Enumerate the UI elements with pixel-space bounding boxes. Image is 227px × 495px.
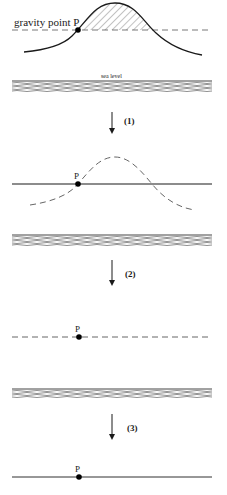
stage-step2: P xyxy=(12,324,212,398)
stage-step1: P xyxy=(12,157,212,246)
hatched-mass xyxy=(24,3,202,60)
step-arrow-2: (2) xyxy=(109,260,136,286)
gravity-point-p xyxy=(76,474,82,480)
gravity-point-p xyxy=(75,27,81,33)
sea-level-waves xyxy=(12,235,212,246)
gravity-reduction-diagram: gravity point P sea level (1) P xyxy=(0,0,227,495)
step-label-1: (1) xyxy=(124,116,135,126)
step-label-3: (3) xyxy=(127,423,138,433)
step-arrow-3: (3) xyxy=(109,414,138,440)
gravity-point-p xyxy=(76,334,82,340)
sea-level-waves xyxy=(12,389,212,398)
point-label: P xyxy=(74,171,79,181)
gravity-point-p xyxy=(75,181,81,187)
step-label-2: (2) xyxy=(125,269,136,279)
point-label: P xyxy=(75,464,80,474)
stage-step3: P xyxy=(12,464,212,480)
point-label: P xyxy=(75,324,80,334)
sea-level-label: sea level xyxy=(101,73,122,79)
stage-original: gravity point P sea level xyxy=(12,3,212,92)
step-arrow-1: (1) xyxy=(109,112,135,134)
gravity-point-label: gravity point P xyxy=(14,16,79,28)
sea-level-waves xyxy=(12,81,212,92)
